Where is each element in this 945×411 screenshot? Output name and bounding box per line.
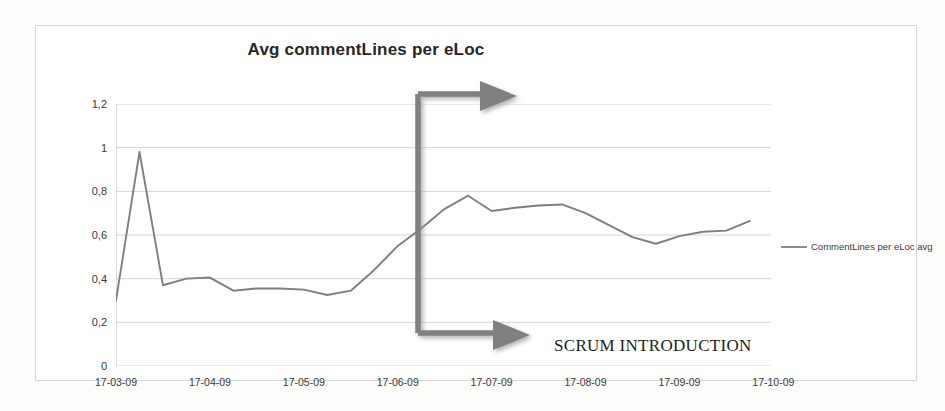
x-tick-label: 17-08-09 (565, 376, 607, 388)
scrum-introduction-label: SCRUM INTRODUCTION (554, 336, 752, 356)
y-tick-label: 0,6 (92, 229, 107, 241)
page-background: Avg commentLines per eLoc 00,20,40,60,81… (0, 0, 945, 411)
y-tick-label: 0,2 (92, 316, 107, 328)
x-tick-label: 17-10-09 (752, 376, 794, 388)
y-tick-label: 0,8 (92, 185, 107, 197)
x-tick-label: 17-04-09 (189, 376, 231, 388)
chart-title: Avg commentLines per eLoc (36, 40, 696, 60)
x-tick-label: 17-07-09 (471, 376, 513, 388)
legend-color-swatch (781, 246, 807, 248)
x-tick-label: 17-03-09 (95, 376, 137, 388)
chart-legend: CommentLines per eLoc avg (781, 241, 932, 252)
plot-area: 00,20,40,60,811,2 17-03-0917-04-0917-05-… (116, 104, 771, 366)
x-tick-label: 17-09-09 (658, 376, 700, 388)
x-tick-label: 17-06-09 (377, 376, 419, 388)
y-tick-label: 0 (101, 360, 107, 372)
y-tick-label: 1 (101, 142, 107, 154)
chart-frame: Avg commentLines per eLoc 00,20,40,60,81… (35, 25, 917, 381)
legend-entry-label: CommentLines per eLoc avg (811, 241, 932, 252)
gridlines (116, 104, 771, 366)
chart-canvas (116, 104, 771, 366)
y-tick-label: 0,4 (92, 273, 107, 285)
x-tick-label: 17-05-09 (283, 376, 325, 388)
y-tick-label: 1,2 (92, 98, 107, 110)
